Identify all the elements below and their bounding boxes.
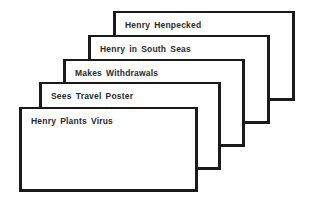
card-title: Henry Henpecked [125,20,201,30]
card-henry-plants-virus: Henry Plants Virus [19,107,198,192]
card-title: Sees Travel Poster [51,91,133,101]
stacked-cards-diagram: Henry Henpecked Henry in South Seas Make… [0,0,312,202]
card-title: Henry Plants Virus [31,116,113,126]
card-title: Henry in South Seas [100,44,191,54]
card-title: Makes Withdrawals [75,68,158,78]
